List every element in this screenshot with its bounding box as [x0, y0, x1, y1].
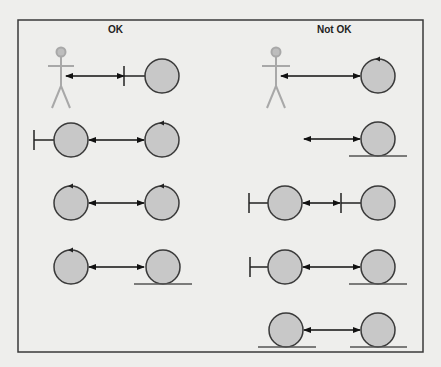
control-icon: [54, 184, 88, 221]
boundary-icon: [124, 59, 179, 93]
notok-row-entity-entity: [258, 313, 407, 347]
control-icon: [145, 121, 179, 158]
control-icon: [361, 57, 395, 94]
actor-icon: [48, 48, 74, 109]
boundary-icon: [34, 123, 88, 157]
robustness-diagram: [0, 0, 441, 367]
control-icon: [145, 184, 179, 221]
boundary-icon: [250, 250, 302, 284]
notok-row-boundary-entity: [250, 250, 407, 284]
notok-row-entity: [304, 122, 407, 156]
notok-row-actor-control: [262, 48, 395, 109]
boundary-icon: [341, 186, 395, 220]
control-icon: [54, 248, 88, 285]
ok-row-control-control: [54, 184, 179, 221]
ok-row-actor-boundary: [48, 48, 179, 109]
actor-icon: [262, 48, 290, 109]
notok-row-boundary-boundary: [249, 186, 395, 220]
boundary-icon: [249, 186, 302, 220]
ok-row-control-entity: [54, 248, 192, 285]
ok-row-boundary-control: [34, 121, 179, 158]
